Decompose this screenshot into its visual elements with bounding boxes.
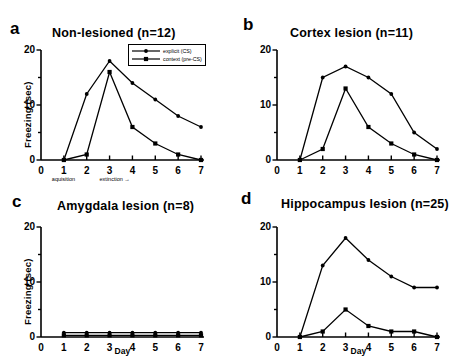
x-tick-label: 5 <box>381 342 401 353</box>
y-tick-label: 10 <box>249 276 271 287</box>
x-tick-label: 4 <box>122 165 142 176</box>
x-tick-label: 0 <box>267 342 287 353</box>
panel-letter-d: d <box>241 190 251 207</box>
plot-area-a <box>0 0 466 364</box>
y-axis-label-a: Freezing (sec) <box>22 81 33 148</box>
panel-title-b: Cortex lesion (n=11) <box>290 26 413 40</box>
x-tick-label: 6 <box>168 165 188 176</box>
x-tick-label: 2 <box>77 342 97 353</box>
x-tick-label: 3 <box>336 165 356 176</box>
figure-canvas: aNon-lesioned (n=12)Freezing (sec)012345… <box>0 0 466 364</box>
x-tick-label: 6 <box>404 165 424 176</box>
x-tick-label: 3 <box>100 165 120 176</box>
y-tick-label: 20 <box>13 44 35 55</box>
legend-item-context: context (pre-CS) <box>131 55 202 63</box>
legend-label: explicit (CS) <box>163 48 192 54</box>
panel-letter-b: b <box>243 16 253 33</box>
x-axis-label-c: Day <box>115 346 131 356</box>
acquisition-phase-label: aquisition <box>52 176 75 182</box>
y-axis-label-c: Freezing (sec) <box>22 258 33 325</box>
x-axis-label-d: Day <box>351 346 367 356</box>
panel-title-a: Non-lesioned (n=12) <box>52 26 176 40</box>
y-tick-label: 0 <box>249 154 271 165</box>
x-tick-label: 7 <box>427 165 447 176</box>
x-tick-label: 1 <box>54 342 74 353</box>
y-tick-label: 20 <box>249 221 271 232</box>
x-tick-label: 6 <box>404 342 424 353</box>
legend-dot-marker-icon <box>131 47 161 55</box>
x-tick-label: 2 <box>77 165 97 176</box>
y-tick-label: 20 <box>249 44 271 55</box>
x-tick-label: 1 <box>290 342 310 353</box>
panel-title-d: Hippocampus lesion (n=25) <box>281 197 449 211</box>
y-tick-label: 10 <box>249 99 271 110</box>
x-tick-label: 7 <box>191 342 211 353</box>
extinction-phase-label: extinction → <box>100 176 130 182</box>
legend: explicit (CS)context (pre-CS) <box>128 44 206 66</box>
x-tick-label: 5 <box>145 342 165 353</box>
panel-letter-c: c <box>12 193 21 210</box>
plot-area-c <box>0 0 466 364</box>
x-tick-label: 0 <box>267 165 287 176</box>
x-tick-label: 5 <box>381 165 401 176</box>
x-tick-label: 1 <box>290 165 310 176</box>
x-tick-label: 7 <box>191 165 211 176</box>
y-tick-label: 20 <box>13 221 35 232</box>
plot-area-d <box>0 0 466 364</box>
y-tick-label: 0 <box>13 154 35 165</box>
x-tick-label: 5 <box>145 165 165 176</box>
x-tick-label: 0 <box>31 165 51 176</box>
x-tick-label: 7 <box>427 342 447 353</box>
legend-label: context (pre-CS) <box>163 56 202 62</box>
x-tick-label: 1 <box>54 165 74 176</box>
plot-area-b <box>0 0 466 364</box>
y-tick-label: 10 <box>13 276 35 287</box>
y-tick-label: 0 <box>13 331 35 342</box>
panel-letter-a: a <box>10 20 19 37</box>
x-tick-label: 2 <box>313 342 333 353</box>
y-tick-label: 0 <box>249 331 271 342</box>
x-tick-label: 0 <box>31 342 51 353</box>
x-tick-label: 4 <box>358 165 378 176</box>
legend-square-marker-icon <box>131 55 161 63</box>
x-tick-label: 6 <box>168 342 188 353</box>
panel-title-c: Amygdala lesion (n=8) <box>57 199 194 213</box>
legend-item-explicit: explicit (CS) <box>131 47 202 55</box>
x-tick-label: 2 <box>313 165 333 176</box>
y-tick-label: 10 <box>13 99 35 110</box>
